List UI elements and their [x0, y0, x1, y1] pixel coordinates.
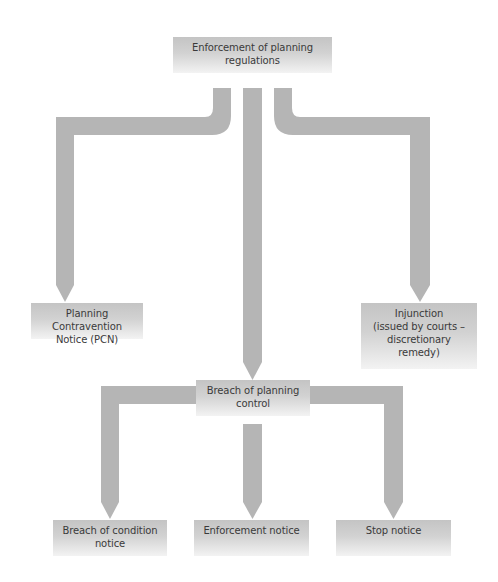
node-label: Injunction (issued by courts – discretio… — [373, 307, 465, 359]
node-planning-contravention-notice: Planning Contravention Notice (PCN) — [31, 303, 143, 339]
arrow-root-to-injunction — [274, 88, 430, 302]
node-label: Planning Contravention Notice (PCN) — [31, 307, 143, 346]
node-label: Breach of condition notice — [62, 524, 157, 550]
connector-arrows — [0, 0, 498, 582]
node-breach-of-condition-notice: Breach of condition notice — [53, 520, 167, 556]
node-label: Enforcement of planning regulations — [192, 41, 313, 67]
node-stop-notice: Stop notice — [336, 520, 451, 556]
arrow-breach-to-breach-condition — [101, 386, 200, 519]
node-enforcement-notice: Enforcement notice — [194, 520, 309, 556]
arrow-breach-to-stop-notice — [305, 386, 403, 519]
arrow-root-to-breach — [243, 88, 262, 380]
arrow-root-to-pcn — [56, 88, 231, 302]
node-breach-of-planning-control: Breach of planning control — [196, 380, 310, 416]
node-root-enforcement-of-planning-regulations: Enforcement of planning regulations — [173, 37, 332, 73]
node-label: Breach of planning control — [207, 384, 299, 410]
node-injunction: Injunction (issued by courts – discretio… — [361, 303, 477, 369]
node-label: Stop notice — [366, 524, 422, 537]
node-label: Enforcement notice — [203, 524, 299, 537]
arrow-breach-to-enforcement-notice — [243, 424, 262, 519]
